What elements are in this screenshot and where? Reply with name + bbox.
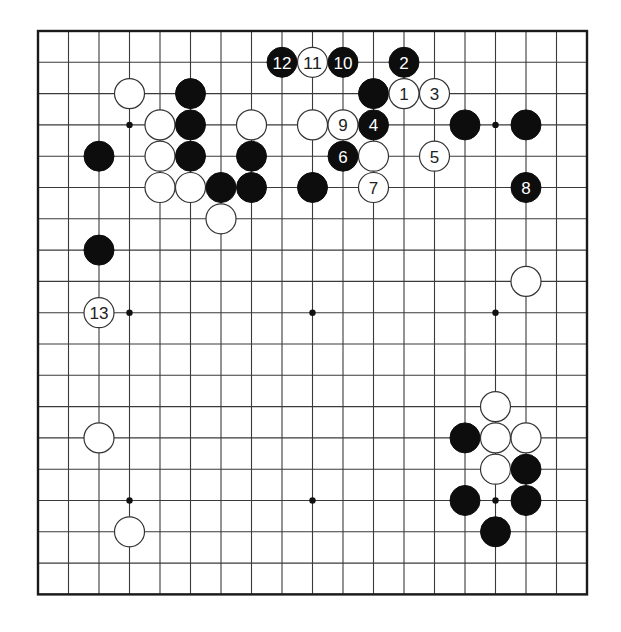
white-stone-circle <box>511 266 541 296</box>
black-stone <box>237 173 267 203</box>
white-stone <box>115 517 145 547</box>
black-stone <box>511 110 541 140</box>
white-stone-move-7: 7 <box>359 173 389 203</box>
black-stone-move-12: 12 <box>267 47 297 77</box>
star-point <box>492 122 498 128</box>
black-stone-circle <box>450 423 480 453</box>
black-stone-circle <box>450 110 480 140</box>
black-stone-move-4: 4 <box>359 110 389 140</box>
black-stone-circle <box>176 79 206 109</box>
black-stone-circle <box>511 110 541 140</box>
star-point <box>492 310 498 316</box>
black-stone <box>84 141 114 171</box>
white-stone-circle <box>206 204 236 234</box>
black-stone <box>298 173 328 203</box>
white-stone <box>511 423 541 453</box>
move-number-label: 1 <box>399 85 408 104</box>
black-stone-circle <box>176 110 206 140</box>
white-stone <box>145 141 175 171</box>
black-stone <box>450 486 480 516</box>
white-stone <box>359 141 389 171</box>
black-stone <box>176 79 206 109</box>
white-stone <box>481 423 511 453</box>
black-stone <box>359 79 389 109</box>
move-number-label: 5 <box>430 148 439 167</box>
white-stone <box>84 423 114 453</box>
white-stone-move-1: 1 <box>389 79 419 109</box>
black-stone-circle <box>237 141 267 171</box>
white-stone-circle <box>84 423 114 453</box>
black-stone <box>511 486 541 516</box>
black-stone <box>511 454 541 484</box>
star-point <box>126 497 132 503</box>
white-stone-circle <box>115 517 145 547</box>
white-stone <box>206 204 236 234</box>
white-stone-circle <box>359 141 389 171</box>
black-stone-move-8: 8 <box>511 173 541 203</box>
white-stone-circle <box>145 173 175 203</box>
white-stone <box>237 110 267 140</box>
black-stone-circle <box>359 79 389 109</box>
move-number-label: 7 <box>369 179 378 198</box>
black-stone-circle <box>511 454 541 484</box>
black-stone-move-2: 2 <box>389 47 419 77</box>
black-stone-circle <box>511 486 541 516</box>
black-stone <box>84 235 114 265</box>
black-stone-circle <box>237 173 267 203</box>
black-stone-circle <box>450 486 480 516</box>
star-point <box>126 122 132 128</box>
move-number-label: 12 <box>273 54 292 73</box>
move-number-label: 11 <box>303 54 322 73</box>
move-number-label: 4 <box>369 116 378 135</box>
white-stone <box>145 173 175 203</box>
black-stone-circle <box>206 173 236 203</box>
black-stone <box>450 423 480 453</box>
black-stone <box>450 110 480 140</box>
white-stone-circle <box>115 79 145 109</box>
white-stone <box>115 79 145 109</box>
black-stone-circle <box>84 141 114 171</box>
white-stone-circle <box>481 392 511 422</box>
star-point <box>309 497 315 503</box>
black-stone <box>206 173 236 203</box>
white-stone-move-13: 13 <box>84 298 114 328</box>
white-stone <box>145 110 175 140</box>
white-stone-circle <box>176 173 206 203</box>
black-stone-circle <box>481 517 511 547</box>
white-stone-circle <box>145 141 175 171</box>
star-point <box>492 497 498 503</box>
move-number-label: 9 <box>338 116 347 135</box>
black-stone-move-6: 6 <box>328 141 358 171</box>
black-stone <box>481 517 511 547</box>
white-stone-circle <box>481 454 511 484</box>
white-stone <box>511 266 541 296</box>
white-stone-move-9: 9 <box>328 110 358 140</box>
white-stone <box>176 173 206 203</box>
star-point <box>309 310 315 316</box>
white-stone-circle <box>481 423 511 453</box>
black-stone-move-10: 10 <box>328 47 358 77</box>
white-stone <box>481 454 511 484</box>
move-number-label: 13 <box>90 304 109 323</box>
move-number-label: 8 <box>521 179 530 198</box>
move-number-label: 10 <box>334 54 353 73</box>
black-stone <box>176 141 206 171</box>
move-number-label: 2 <box>399 54 408 73</box>
black-stone <box>237 141 267 171</box>
white-stone-circle <box>511 423 541 453</box>
black-stone-circle <box>298 173 328 203</box>
go-board[interactable]: 12345678910111213 <box>0 0 621 632</box>
white-stone-move-3: 3 <box>420 79 450 109</box>
go-board-svg[interactable]: 12345678910111213 <box>0 0 621 632</box>
white-stone <box>298 110 328 140</box>
white-stone-circle <box>145 110 175 140</box>
white-stone-circle <box>298 110 328 140</box>
white-stone <box>481 392 511 422</box>
move-number-label: 3 <box>430 85 439 104</box>
move-number-label: 6 <box>338 148 347 167</box>
star-point <box>126 310 132 316</box>
black-stone-circle <box>176 141 206 171</box>
white-stone-circle <box>237 110 267 140</box>
white-stone-move-11: 11 <box>298 47 328 77</box>
black-stone <box>176 110 206 140</box>
